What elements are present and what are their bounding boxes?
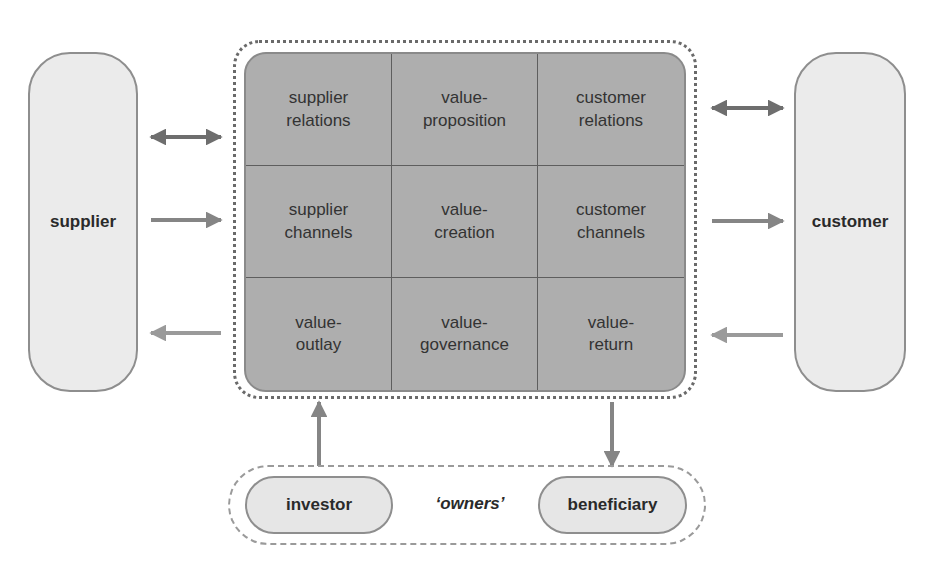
cell-value-governance: value- governance xyxy=(392,278,538,390)
customer-entity: customer xyxy=(794,52,906,392)
business-model-grid: supplier relations value- proposition cu… xyxy=(244,52,686,392)
cell-value-outlay: value- outlay xyxy=(246,278,392,390)
beneficiary-entity: beneficiary xyxy=(538,476,687,534)
cell-customer-relations: customer relations xyxy=(538,54,684,166)
supplier-entity: supplier xyxy=(28,52,138,392)
supplier-label: supplier xyxy=(50,212,116,232)
beneficiary-label: beneficiary xyxy=(568,495,658,515)
cell-value-proposition: value- proposition xyxy=(392,54,538,166)
cell-value-return: value- return xyxy=(538,278,684,390)
cell-value-creation: value- creation xyxy=(392,166,538,278)
owners-group-label: ‘owners’ xyxy=(420,494,520,514)
customer-label: customer xyxy=(812,212,889,232)
cell-supplier-relations: supplier relations xyxy=(246,54,392,166)
investor-entity: investor xyxy=(245,476,393,534)
investor-label: investor xyxy=(286,495,352,515)
cell-customer-channels: customer channels xyxy=(538,166,684,278)
cell-supplier-channels: supplier channels xyxy=(246,166,392,278)
